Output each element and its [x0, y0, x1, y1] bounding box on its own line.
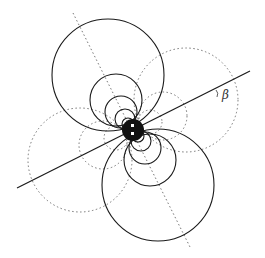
field-line-drawing [0, 0, 265, 258]
dipole-core [122, 119, 144, 141]
angle-beta-label: β [222, 88, 229, 102]
dipole-diagram: β [0, 0, 265, 258]
angle-arc [216, 90, 218, 97]
